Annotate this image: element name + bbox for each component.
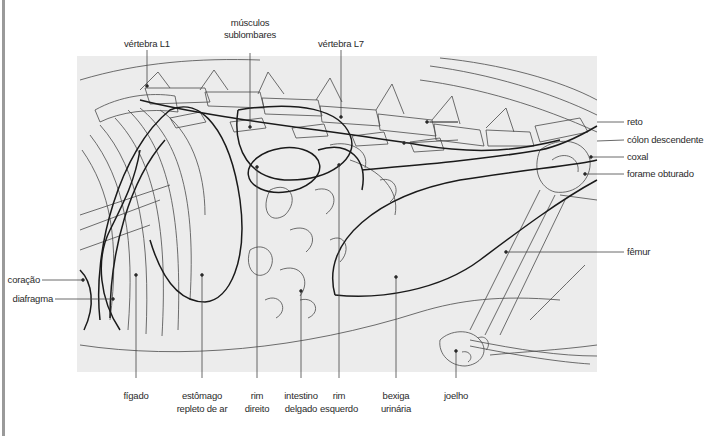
label-bexiga-urinaria-line1: bexiga: [383, 390, 410, 402]
label-rim-direito-line2: direito: [245, 403, 269, 415]
label-bexiga-urinaria-line2: urinária: [381, 403, 411, 415]
label-coracao: coração: [8, 274, 40, 286]
label-musculos-sublombares-line1: músculos: [231, 17, 270, 29]
label-joelho: joelho: [444, 390, 468, 402]
label-estomago-line2: repleto de ar: [177, 403, 228, 415]
label-colon-descendente: cólon descendente: [627, 134, 703, 146]
label-intestino-delgado-line1: intestino: [284, 390, 318, 402]
label-vertebra-l1: vértebra L1: [124, 38, 170, 50]
label-femur: fêmur: [627, 246, 650, 258]
label-figado: fígado: [123, 390, 148, 402]
label-intestino-delgado-line2: delgado: [285, 403, 317, 415]
label-forame-obturado: forame obturado: [627, 168, 694, 180]
label-diafragma: diafragma: [13, 293, 53, 305]
label-musculos-sublombares-line2: sublombares: [224, 29, 276, 41]
anatomy-illustration: [0, 0, 725, 436]
label-vertebra-l7: vértebra L7: [318, 38, 364, 50]
label-rim-direito-line1: rim: [251, 390, 264, 402]
label-coxal: coxal: [627, 151, 648, 163]
label-estomago-line1: estômago: [182, 390, 222, 402]
label-reto: reto: [627, 116, 643, 128]
label-rim-esquerdo-line2: esquerdo: [320, 403, 358, 415]
label-rim-esquerdo-line1: rim: [333, 390, 346, 402]
